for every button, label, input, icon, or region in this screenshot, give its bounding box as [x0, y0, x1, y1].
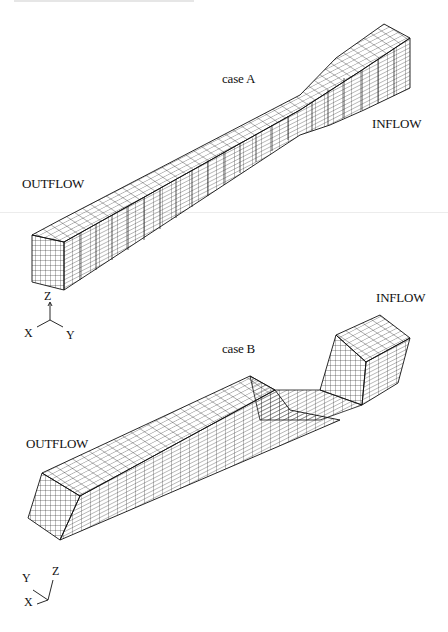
- case-a-axis-y-label: Y: [66, 329, 75, 341]
- case-a-outflow-label: OUTFLOW: [22, 177, 84, 190]
- mesh-figure: [0, 0, 448, 632]
- axis-triad-b: [33, 580, 53, 604]
- case-a-axis-z-label: Z: [44, 290, 51, 302]
- case-b-axis-x-label: X: [24, 596, 33, 608]
- case-b-axis-z-label: Z: [52, 565, 59, 577]
- case-a-inflow-label: INFLOW: [372, 117, 421, 130]
- case-b-axis-y-label: Y: [22, 572, 31, 584]
- case-b-title: case B: [222, 342, 255, 355]
- case-b-inflow-label: INFLOW: [376, 291, 425, 304]
- axis-triad-a: [37, 302, 63, 327]
- case-a-title: case A: [222, 72, 255, 85]
- case-b-outflow-label: OUTFLOW: [26, 437, 88, 450]
- case-a-mesh: [32, 24, 410, 290]
- case-a-axis-x-label: X: [24, 327, 33, 339]
- case-b-mesh: [28, 315, 410, 540]
